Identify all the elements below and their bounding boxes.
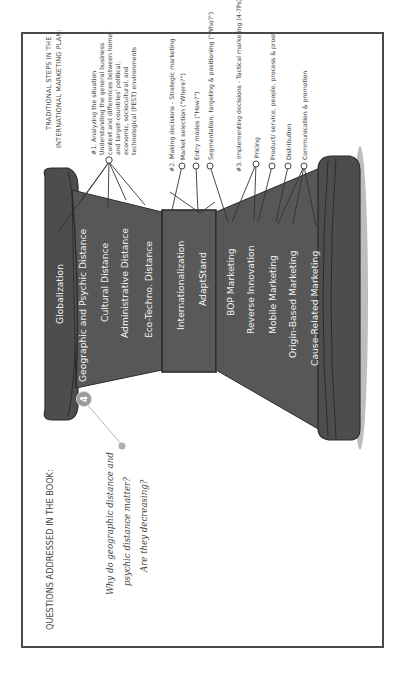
label-origin-based-marketing: Origin-Based Marketing	[287, 250, 298, 358]
step3-title: #3. Implementing decisions - Tactical ma…	[235, 0, 243, 172]
step3-item-communication: Communication & promotion	[301, 71, 309, 160]
segmentation-node-icon	[207, 163, 213, 169]
step3-item-distribution: Distribution	[285, 124, 292, 160]
step2-item-market-selection: Market selection ("Where?")	[179, 73, 186, 160]
communication-node-icon	[301, 163, 307, 169]
question-line1: Why do geographic distance and	[105, 452, 115, 595]
step3-item-product: Product/ service, people, process & proo…	[269, 32, 277, 160]
label-cultural-distance: Cultural Distance	[99, 242, 110, 322]
label-eco-techno-distance: Eco-Techno. Distance	[143, 241, 154, 338]
label-internationalization: Internationalization	[175, 241, 186, 330]
chapter-number: 4	[79, 396, 89, 402]
header-line1: TRADITIONAL STEPS IN THE	[45, 37, 53, 131]
bottom-cap	[318, 156, 360, 440]
label-globalization: Globalization	[54, 264, 65, 324]
header-line2: INTERNATIONAL MARKETING PLAN:	[55, 29, 63, 148]
market-selection-node-icon	[179, 163, 185, 169]
question-line3: Are they decreasing?	[139, 479, 149, 573]
label-administrative-distance: Administrative Distance	[119, 228, 130, 338]
distribution-node-icon	[285, 163, 291, 169]
label-mobile-marketing: Mobile Marketing	[267, 255, 278, 334]
label-reverse-innovation: Reverse Innovation	[245, 245, 256, 334]
label-geographic-distance: Geographic and Psychic Distance	[77, 228, 88, 382]
step3-item-pricing: Pricing	[253, 137, 261, 158]
step1-line3: and target-countries' political,	[114, 62, 122, 155]
step1-line5: technological (PEST) environments	[130, 47, 138, 155]
pricing-node-icon	[253, 161, 259, 167]
label-adaptstand: AdaptStand	[197, 252, 208, 306]
pointer-dot-icon	[119, 443, 126, 450]
product-node-icon	[269, 163, 275, 169]
label-cause-related-marketing: Cause-Related Marketing	[309, 251, 320, 366]
step1-line1: Understanding the general business	[98, 43, 106, 155]
step1-line2: context and differences between home-	[106, 31, 113, 155]
step1-title: #1. Analyzing the situation	[90, 71, 98, 155]
entry-modes-node-icon	[193, 163, 199, 169]
step1-node-icon	[106, 157, 112, 163]
questions-heading: QUESTIONS ADDRESSED IN THE BOOK:	[45, 469, 55, 630]
step2-title: #2. Making decisions - Strategic marketi…	[168, 38, 176, 172]
question-line2: psychic distance matter?	[122, 477, 132, 586]
step2-item-segmentation: Segmentation, targeting & positioning ("…	[207, 12, 215, 160]
hourglass-diagram: 4 Globalization Geographic and Psychic D…	[0, 0, 400, 673]
step1-line4: economic, sociocultural, and	[122, 66, 129, 155]
badge-pointer	[85, 402, 122, 445]
step2-item-entry-modes: Entry modes ("How?")	[193, 92, 201, 160]
label-bop-marketing: BOP Marketing	[225, 248, 236, 316]
